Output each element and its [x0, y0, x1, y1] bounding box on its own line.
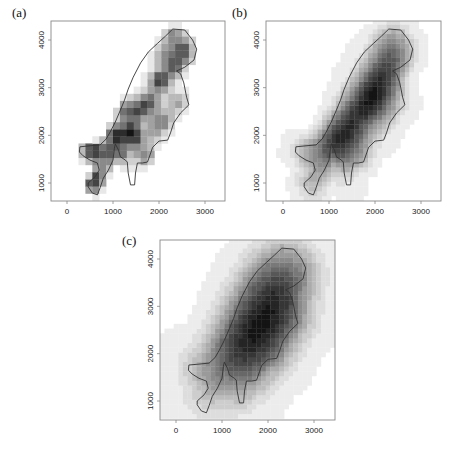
y-tick-label: 3000: [146, 297, 155, 315]
y-tick-label: 3000: [37, 78, 46, 96]
y-tick-label: 2000: [146, 344, 155, 362]
panel-a: 01000200030001000200030004000: [37, 21, 225, 216]
panel-b: 01000200030001000200030004000: [252, 20, 441, 217]
x-tick-label: 0: [174, 426, 179, 435]
y-tick-label: 1000: [252, 174, 261, 192]
heatmap-b: [276, 20, 428, 201]
y-tick-label: 4000: [37, 31, 46, 49]
heatmap-a: [72, 22, 203, 201]
x-tick-label: 1000: [104, 207, 122, 216]
panel-c: 01000200030001000200030004000: [146, 239, 335, 435]
x-tick-label: 2000: [259, 426, 277, 435]
x-tick-label: 3000: [305, 426, 323, 435]
x-tick-label: 3000: [412, 207, 430, 216]
x-tick-label: 2000: [150, 207, 168, 216]
x-tick-label: 0: [281, 207, 286, 216]
y-tick-label: 4000: [146, 250, 155, 268]
plots-canvas: 0100020003000100020003000400001000200030…: [0, 0, 462, 449]
y-tick-label: 4000: [252, 31, 261, 49]
x-tick-label: 1000: [320, 207, 338, 216]
x-tick-label: 1000: [213, 426, 231, 435]
y-tick-label: 1000: [146, 392, 155, 410]
y-tick-label: 2000: [37, 126, 46, 144]
y-tick-label: 1000: [37, 174, 46, 192]
x-tick-label: 2000: [366, 207, 384, 216]
x-tick-label: 3000: [196, 207, 214, 216]
y-tick-label: 3000: [252, 78, 261, 96]
heatmap-c: [160, 239, 335, 419]
x-tick-label: 0: [65, 207, 70, 216]
y-tick-label: 2000: [252, 126, 261, 144]
